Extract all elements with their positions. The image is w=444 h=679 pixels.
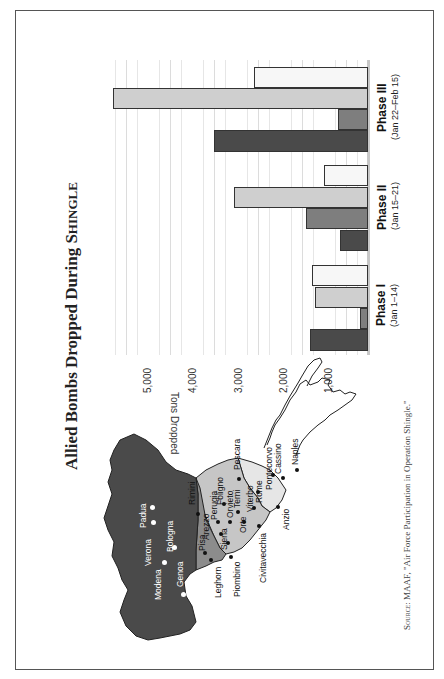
city-dot-cassino bbox=[281, 476, 285, 480]
city-label-orte: Orte bbox=[238, 516, 248, 533]
city-dot-naples bbox=[295, 468, 299, 472]
city-dot-civitavecchia bbox=[257, 524, 261, 528]
map-zone-north bbox=[104, 434, 198, 640]
city-label-rome: Rome bbox=[254, 480, 264, 503]
source-note: Source: MAAF, "Air Force Participation i… bbox=[402, 400, 412, 630]
city-dot-pisa bbox=[203, 551, 207, 555]
city-dot-pescara bbox=[237, 477, 241, 481]
city-dot-orvieto bbox=[228, 520, 232, 524]
city-label-modena: Modena bbox=[153, 569, 163, 600]
city-dot-leghorn bbox=[209, 558, 213, 562]
map-outline-heel bbox=[264, 358, 322, 448]
city-label-civitavecchia: Civitavecchia bbox=[258, 533, 268, 583]
city-label-piombino: Piombino bbox=[232, 562, 242, 597]
city-dot-modena bbox=[162, 560, 167, 565]
city-dot-anzio bbox=[276, 505, 280, 509]
city-dot-padua bbox=[150, 505, 155, 510]
city-dot-genoa bbox=[181, 592, 186, 597]
source-label: Source: bbox=[402, 602, 412, 630]
city-label-rimini: Rimini bbox=[187, 481, 197, 505]
city-dot-perugia bbox=[216, 520, 220, 524]
city-label-anzio: Anzio bbox=[281, 509, 291, 530]
city-dot-terni bbox=[236, 510, 240, 514]
city-label-verona: Verona bbox=[143, 539, 153, 566]
city-dot-rimini bbox=[196, 512, 200, 516]
city-label-padua: Padua bbox=[138, 503, 148, 528]
city-label-bologna: Bologna bbox=[165, 521, 175, 552]
city-label-terni: Terni bbox=[232, 490, 242, 508]
city-label-genoa: Genoa bbox=[175, 561, 185, 587]
city-dot-piombino bbox=[229, 555, 233, 559]
source-text: MAAF, "Air Force Participation in Operat… bbox=[402, 400, 412, 600]
city-label-pescara: Pescara bbox=[232, 439, 242, 470]
city-label-foligno: Foligno bbox=[215, 477, 225, 505]
city-label-cassino: Cassino bbox=[273, 443, 283, 474]
city-label-leghorn: Leghorn bbox=[213, 567, 223, 598]
city-label-siena: Siena bbox=[219, 528, 229, 550]
city-label-naples: Naples bbox=[290, 439, 300, 465]
city-dot-verona bbox=[151, 520, 156, 525]
